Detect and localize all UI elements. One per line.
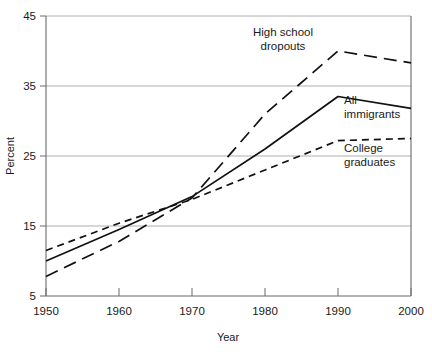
x-tick-label-1950: 1950	[33, 305, 59, 317]
x-tick-label-1990: 1990	[325, 305, 351, 317]
y-tick-label-15: 15	[23, 220, 36, 232]
x-tick-label-2000: 2000	[398, 305, 424, 317]
x-tick-label-1960: 1960	[106, 305, 132, 317]
annotation-college-line2: graduates	[344, 156, 395, 168]
line-chart: 5 15 25 35 45 1950 1960 1970 1980 1990 2…	[0, 0, 432, 355]
annotation-immigrants-line2: immigrants	[344, 108, 400, 120]
annotation-immigrants-line1: All	[344, 94, 357, 106]
y-tick-label-35: 35	[23, 80, 36, 92]
y-tick-label-25: 25	[23, 150, 36, 162]
annotation-dropouts-line1: High school	[253, 26, 313, 38]
x-axis-title: Year	[217, 331, 240, 343]
x-tick-label-1980: 1980	[252, 305, 278, 317]
y-tick-label-45: 45	[23, 10, 36, 22]
y-tick-label-5: 5	[30, 290, 36, 302]
annotation-dropouts-line2: dropouts	[261, 40, 306, 52]
annotation-college-line1: College	[344, 142, 383, 154]
chart-background	[0, 0, 432, 355]
y-axis-title: Percent	[4, 137, 16, 175]
x-tick-label-1970: 1970	[179, 305, 205, 317]
